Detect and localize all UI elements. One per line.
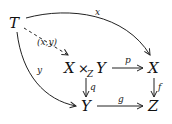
object-T: T	[9, 14, 20, 32]
label-p: p	[125, 55, 131, 65]
label-xy: (x,y)	[37, 37, 58, 47]
arrow-x	[26, 13, 150, 55]
object-Y: Y	[81, 97, 93, 115]
object-X: X	[147, 59, 160, 77]
commutative-diagram: T X × Z Y X Y Z x (x,y) y p q f g	[0, 0, 172, 124]
label-x: x	[95, 7, 100, 17]
label-q: q	[90, 82, 96, 92]
pullback-left-X: X	[63, 59, 76, 77]
object-pullback: X × Z Y	[63, 59, 108, 79]
label-g: g	[118, 94, 124, 104]
label-f: f	[157, 82, 163, 92]
pullback-right-Y: Y	[96, 59, 108, 77]
pullback-subscript-Z: Z	[86, 69, 94, 79]
object-Z: Z	[147, 97, 159, 115]
label-y: y	[36, 65, 43, 75]
